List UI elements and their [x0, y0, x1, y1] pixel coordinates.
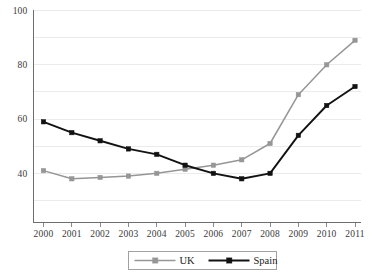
y-tick-label: 100 — [13, 6, 28, 16]
x-tick-label: 2001 — [62, 229, 82, 239]
data-point-marker — [183, 163, 187, 167]
data-point-marker — [183, 167, 187, 171]
series-layer — [41, 38, 357, 181]
data-point-marker — [268, 141, 272, 145]
data-point-marker — [41, 120, 45, 124]
data-point-marker — [41, 168, 45, 172]
data-point-marker — [240, 177, 244, 181]
data-point-marker — [126, 147, 130, 151]
x-tick-label: 2003 — [119, 229, 139, 239]
series-line — [44, 40, 356, 178]
x-tick-label: 2005 — [175, 229, 195, 239]
y-tick-labels-group: 100806040 — [13, 6, 28, 179]
data-point-marker — [296, 133, 300, 137]
data-point-marker — [155, 152, 159, 156]
data-point-marker — [70, 177, 74, 181]
data-point-marker — [353, 84, 357, 88]
x-tick-label: 2011 — [345, 229, 364, 239]
series-uk — [41, 38, 357, 181]
line-chart: 100806040 200020012002200320042005200620… — [0, 0, 380, 278]
data-point-marker — [268, 171, 272, 175]
legend-marker-swatch — [153, 258, 158, 263]
axes-group — [34, 10, 362, 223]
x-tick-label: 2007 — [232, 229, 252, 239]
x-tick-label: 2004 — [147, 229, 167, 239]
data-point-marker — [211, 171, 215, 175]
x-tick-label: 2006 — [204, 229, 224, 239]
x-tick-label: 2009 — [288, 229, 308, 239]
data-point-marker — [126, 174, 130, 178]
series-spain — [41, 84, 357, 181]
chart-canvas: 100806040 200020012002200320042005200620… — [0, 0, 380, 278]
x-tick-label: 2010 — [317, 229, 337, 239]
series-line — [44, 87, 356, 179]
legend-label: Spain — [254, 255, 279, 266]
x-tick-labels-group: 2000200120022003200420052006200720082009… — [34, 229, 365, 239]
data-point-marker — [98, 175, 102, 179]
y-tick-label: 40 — [18, 169, 28, 179]
data-point-marker — [70, 130, 74, 134]
x-tick-label: 2002 — [90, 229, 110, 239]
x-tick-label: 2008 — [260, 229, 280, 239]
data-point-marker — [324, 63, 328, 67]
data-point-marker — [240, 158, 244, 162]
gridlines-group — [34, 11, 362, 201]
x-tickmarks-group — [44, 223, 356, 228]
data-point-marker — [324, 103, 328, 107]
chart-legend: UKSpain — [129, 252, 279, 270]
data-point-marker — [211, 163, 215, 167]
data-point-marker — [155, 171, 159, 175]
legend-marker-swatch — [227, 258, 232, 263]
y-tick-label: 60 — [18, 114, 28, 124]
y-tick-label: 80 — [18, 60, 28, 70]
data-point-marker — [98, 139, 102, 143]
x-tick-label: 2000 — [34, 229, 54, 239]
data-point-marker — [353, 38, 357, 42]
legend-label: UK — [180, 255, 196, 266]
data-point-marker — [296, 92, 300, 96]
